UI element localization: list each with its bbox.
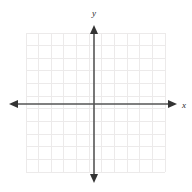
y-axis-label: y [91,8,96,18]
x-axis-label: x [181,100,186,110]
coordinate-plane-figure: y x [0,0,192,192]
coordinate-plane-svg: y x [0,0,192,192]
